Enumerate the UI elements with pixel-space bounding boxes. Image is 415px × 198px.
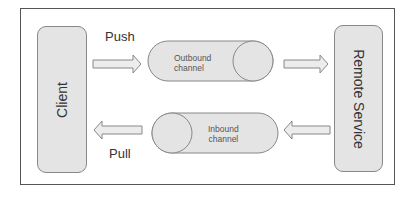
push-label: Push xyxy=(105,29,135,44)
inbound-channel-label: Inbound channel xyxy=(208,124,239,144)
pull-label: Pull xyxy=(109,146,131,161)
outbound-channel-label: Outbound channel xyxy=(174,53,211,73)
diagram-shapes xyxy=(0,0,415,198)
